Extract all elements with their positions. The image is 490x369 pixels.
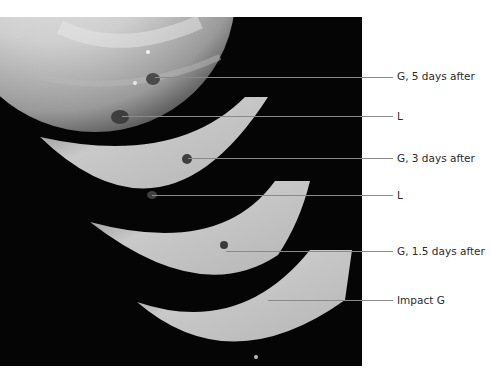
panel-1: [0, 17, 235, 132]
jupiter-image-panel: [0, 17, 362, 366]
leader-line-l-2: [152, 195, 393, 196]
jupiter-impact-images: [0, 17, 362, 366]
label-g-1-5-days-after: G, 1.5 days after: [397, 245, 485, 257]
leader-line-g-5days: [155, 77, 393, 78]
leader-line-g-3days: [188, 158, 393, 159]
label-impact-g: Impact G: [397, 294, 445, 306]
label-g-5-days-after: G, 5 days after: [397, 70, 475, 82]
label-g-3-days-after: G, 3 days after: [397, 152, 475, 164]
leader-line-g-1_5days: [226, 251, 393, 252]
leader-line-l-1: [122, 116, 393, 117]
label-l-2: L: [397, 189, 403, 201]
leader-line-impact-g: [268, 300, 393, 301]
label-l-1: L: [397, 110, 403, 122]
